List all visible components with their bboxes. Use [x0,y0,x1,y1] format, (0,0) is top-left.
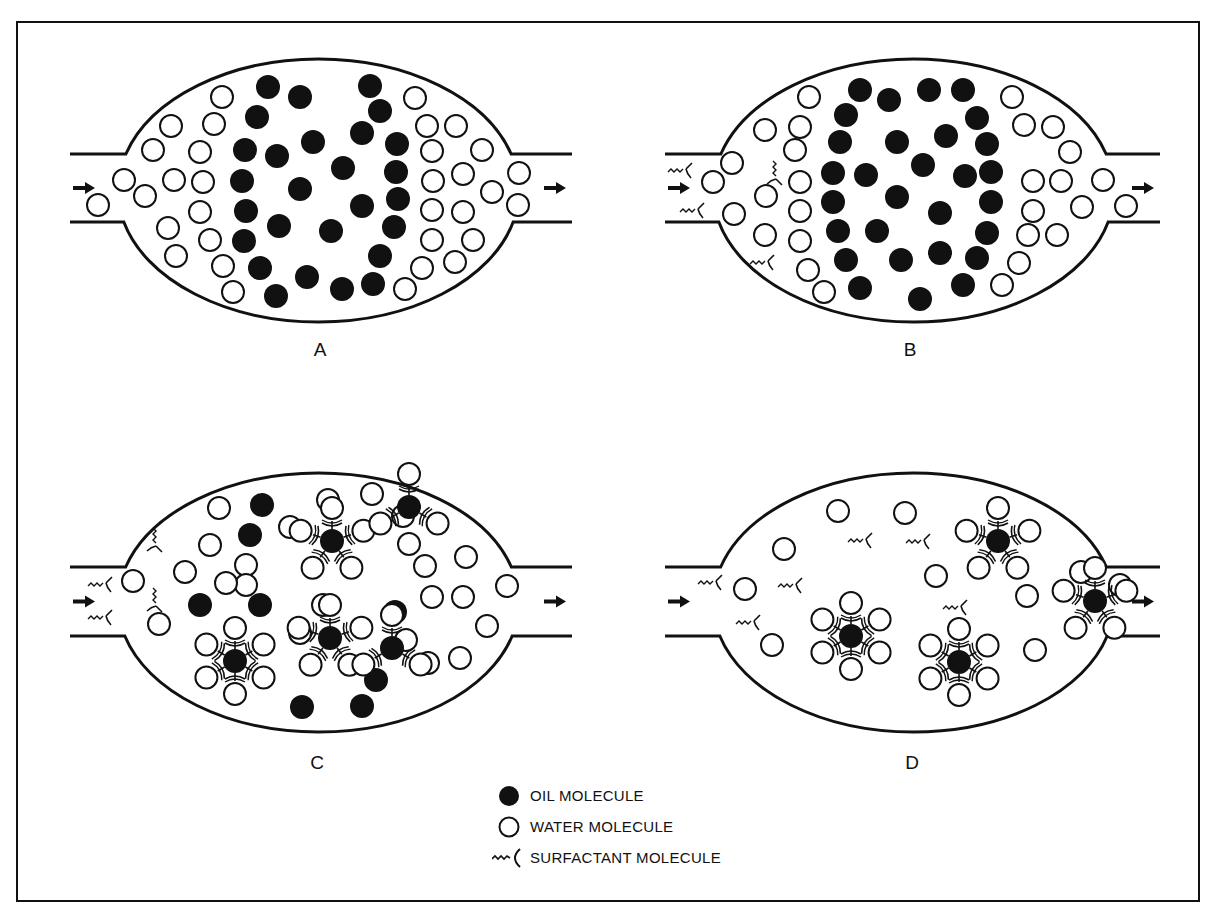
water-molecule-icon [1053,580,1075,602]
micelle-oil-core-icon [318,626,342,650]
water-molecule-icon [784,139,806,161]
water-molecule-icon [222,281,244,303]
water-molecule-icon [414,555,436,577]
inflow-arrow-icon [73,182,95,194]
water-molecule-icon [813,281,835,303]
oil-molecule-icon [290,695,314,719]
water-molecule-icon [449,647,471,669]
legend-item-water: WATER MOLECULE [492,811,721,842]
oil-molecule-icon [248,593,272,617]
water-molecule-icon [192,171,214,193]
water-molecule-icon [199,534,221,556]
water-molecule-icon [352,654,374,676]
surfactant-molecule-icon [736,615,760,630]
water-molecule-icon [452,163,474,185]
oil-molecule-icon [492,784,524,808]
water-molecule-icon [827,500,849,522]
water-molecule-icon [411,257,433,279]
water-molecule-icon [211,86,233,108]
legend: OIL MOLECULE WATER MOLECULE SURFACTANT M… [492,780,721,873]
legend-item-oil: OIL MOLECULE [492,780,721,811]
oil-molecule-icon [350,121,374,145]
water-molecule-icon [723,203,745,225]
oil-molecule-icon [295,265,319,289]
water-molecule-icon [212,255,234,277]
oil-molecule-icon [951,273,975,297]
water-molecule-icon [444,251,466,273]
oil-molecule-icon [188,593,212,617]
inflow-arrow-icon [73,596,95,608]
water-molecule-icon [789,171,811,193]
legend-label-water: WATER MOLECULE [530,818,673,835]
water-molecule-icon [404,87,426,109]
water-molecule-icon [773,538,795,560]
water-molecule-icon [253,667,275,689]
water-molecule-icon [948,684,970,706]
water-molecule-icon [1092,169,1114,191]
legend-item-surfactant: SURFACTANT MOLECULE [492,842,721,873]
micelle-oil-core-icon [986,529,1010,553]
water-molecule-icon [421,229,443,251]
micelle-oil-core-icon [380,636,404,660]
outflow-arrow-icon [544,182,566,194]
water-molecule-icon [1071,196,1093,218]
water-molecule-icon [1008,252,1030,274]
oil-molecule-icon [288,85,312,109]
oil-molecule-icon [848,276,872,300]
oil-molecule-icon [975,132,999,156]
water-molecule-icon [956,520,978,542]
panel-label-b: B [904,339,917,361]
oil-molecule-icon [368,99,392,123]
panel-label-a: A [314,339,327,361]
water-molecule-icon [421,199,443,221]
water-molecule-icon [462,229,484,251]
water-molecule-icon [702,171,724,193]
water-molecule-icon [427,513,449,535]
water-molecule-icon [235,554,257,576]
oil-molecule-icon [264,284,288,308]
water-molecule-icon [321,497,343,519]
oil-molecule-icon [350,694,374,718]
oil-molecule-icon [232,229,256,253]
water-molecule-icon [290,520,312,542]
oil-molecule-icon [951,78,975,102]
water-molecule-icon [789,200,811,222]
water-molecule-icon [754,224,776,246]
water-molecule-icon [919,668,941,690]
oil-molecule-icon [834,103,858,127]
oil-molecule-icon [288,177,312,201]
water-molecule-icon [1065,617,1087,639]
water-molecule-icon [507,194,529,216]
water-molecule-icon [199,229,221,251]
water-molecule-icon [398,533,420,555]
water-molecule-icon [811,609,833,631]
oil-molecule-icon [385,132,409,156]
water-molecule-icon [235,574,257,596]
water-molecule-icon [445,115,467,137]
water-molecule-icon [455,546,477,568]
oil-molecule-icon [319,219,343,243]
outflow-arrow-icon [1132,182,1154,194]
water-molecule-icon [421,586,443,608]
inflow-arrow-icon [668,596,690,608]
surfactant-molecule-icon [147,588,162,612]
water-molecule-icon [797,259,819,281]
water-molecule-icon [422,170,444,192]
water-molecule-icon [163,169,185,191]
water-molecule-icon [148,613,170,635]
oil-molecule-icon [821,190,845,214]
water-molecule-icon [1013,114,1035,136]
water-molecule-icon [160,115,182,137]
water-molecule-icon [840,658,862,680]
water-molecule-icon [157,217,179,239]
micelle-oil-core-icon [223,649,247,673]
oil-molecule-icon [233,138,257,162]
water-molecule-icon [1006,557,1028,579]
oil-molecule-icon [265,144,289,168]
oil-molecule-icon [834,248,858,272]
water-molecule-icon [1115,580,1137,602]
panel-label-d: D [905,752,919,774]
oil-molecule-icon [877,88,901,112]
water-molecule-icon [302,557,324,579]
water-molecule-icon [113,169,135,191]
